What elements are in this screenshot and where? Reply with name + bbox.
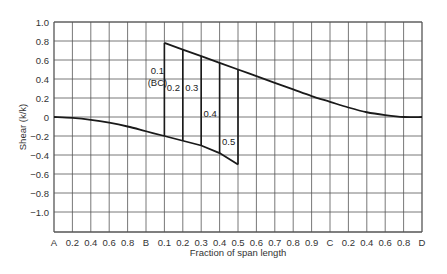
section-label: 0.4 <box>204 108 217 119</box>
x-tick-label: 0.6 <box>379 237 392 248</box>
section-label: 0.1 <box>151 65 164 76</box>
x-tick-label: 0.4 <box>360 237 373 248</box>
y-tick-label: −0.6 <box>30 169 49 180</box>
y-tick-label: 0.6 <box>36 55 49 66</box>
x-tick-label: D <box>419 237 426 248</box>
y-tick-label: −0.8 <box>30 188 49 199</box>
x-tick-label: A <box>51 237 58 248</box>
x-tick-label: 0.8 <box>287 237 300 248</box>
y-tick-label: −1.0 <box>30 207 49 218</box>
y-tick-label: 0.4 <box>36 74 49 85</box>
section-label: (BC) <box>148 77 168 88</box>
x-tick-label: 0.8 <box>121 237 134 248</box>
y-tick-label: −0.4 <box>30 150 49 161</box>
y-tick-label: 1.0 <box>36 17 49 28</box>
shear-envelope-chart: 1.00.80.60.40.20−0.2−0.4−0.6−0.8−1.0 A0.… <box>0 0 447 274</box>
x-tick-label: B <box>143 237 149 248</box>
x-tick-label: 0.2 <box>342 237 355 248</box>
x-tick-label: 0.4 <box>84 237 97 248</box>
x-tick-label: 0.2 <box>176 237 189 248</box>
x-tick-label: 0.8 <box>397 237 410 248</box>
y-tick-label: 0.8 <box>36 36 49 47</box>
x-tick-label: C <box>327 237 334 248</box>
section-label: 0.5 <box>222 136 235 147</box>
y-tick-label: 0 <box>44 112 49 123</box>
section-label: 0.2 <box>167 82 180 93</box>
x-tick-label: 0.9 <box>305 237 318 248</box>
x-tick-label: 0.1 <box>158 237 171 248</box>
x-tick-label: 0.6 <box>103 237 116 248</box>
y-tick-label: −0.2 <box>30 131 49 142</box>
y-tick-label: 0.2 <box>36 93 49 104</box>
section-label: 0.3 <box>185 82 198 93</box>
y-axis-tick-labels: 1.00.80.60.40.20−0.2−0.4−0.6−0.8−1.0 <box>30 17 49 218</box>
x-tick-label: 0.2 <box>66 237 79 248</box>
y-axis-title: Shear (k/k) <box>17 104 28 150</box>
x-axis-title: Fraction of span length <box>190 247 287 258</box>
